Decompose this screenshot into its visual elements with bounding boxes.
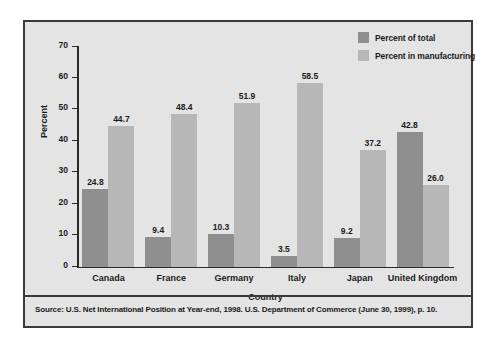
legend-swatch-percent-of-total [358,32,369,43]
bar[interactable]: 48.4 [171,114,197,266]
y-axis-tick-label: 40 [59,134,68,144]
x-axis-category-label: Italy [288,273,306,283]
y-axis-tick-label: 20 [59,197,68,207]
bar-value-label: 48.4 [176,102,193,112]
bar-group: 9.237.2Japan [328,47,391,267]
bar[interactable]: 26.0 [423,185,449,267]
source-divider [25,295,471,297]
x-axis-category-label: United Kingdom [388,273,458,283]
bar-group: 9.448.4France [140,47,203,267]
bar-value-label: 51.9 [239,91,256,101]
y-axis-tick-label: 70 [59,40,68,50]
bar-value-label: 9.2 [341,226,353,236]
bar-value-label: 42.8 [401,120,418,130]
x-axis-category-label: Germany [215,273,254,283]
y-axis-tick-label: 30 [59,165,68,175]
bar[interactable]: 9.2 [334,238,360,267]
x-axis-category-label: Japan [347,273,373,283]
bar-group: 10.351.9Germany [203,47,266,267]
x-axis-category-label: France [156,273,186,283]
bar-value-label: 3.5 [278,244,290,254]
bar-group: 3.558.5Italy [266,47,329,267]
source-note: Source: U.S. Net International Position … [35,305,461,314]
bar-value-label: 44.7 [113,114,130,124]
legend-label-percent-of-total: Percent of total [375,33,435,43]
y-axis-tick-label: 10 [59,228,68,238]
y-axis-tick-label: 50 [59,102,68,112]
x-axis-line [77,267,454,269]
bar[interactable]: 10.3 [208,234,234,266]
bar-value-label: 24.8 [87,177,104,187]
y-axis-tick-label: 60 [59,71,68,81]
bar-group: 24.844.7Canada [77,47,140,267]
bar[interactable]: 51.9 [234,103,260,266]
bar-value-label: 9.4 [152,225,164,235]
bar-value-label: 10.3 [213,222,230,232]
y-axis-tick-label: 0 [63,260,68,270]
x-axis-category-label: Canada [92,273,125,283]
legend-item-percent-of-total[interactable]: Percent of total [358,30,496,45]
y-axis-title: Percent [39,105,49,138]
bar[interactable]: 44.7 [108,126,134,266]
bar[interactable]: 58.5 [297,83,323,267]
chart-figure: Percent of total Percent in manufacturin… [23,20,473,328]
plot-area: 01020304050607024.844.7Canada9.448.4Fran… [77,46,454,268]
bar[interactable]: 37.2 [360,150,386,267]
x-axis-title: Country [77,292,454,302]
bar-group: 42.826.0United Kingdom [391,47,454,267]
bar-value-label: 26.0 [427,173,444,183]
bar[interactable]: 42.8 [397,132,423,267]
bar-value-label: 58.5 [302,71,319,81]
bar[interactable]: 3.5 [271,256,297,267]
bar[interactable]: 24.8 [82,189,108,267]
bar-value-label: 37.2 [364,138,381,148]
bar[interactable]: 9.4 [145,237,171,267]
